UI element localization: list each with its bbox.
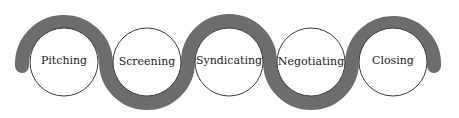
stage-label-syndicating: Syndicating <box>191 54 267 68</box>
stage-label-closing: Closing <box>355 54 431 68</box>
stage-label-screening: Screening <box>109 55 185 69</box>
stage-label-negotiating: Negotiating <box>273 55 349 69</box>
stage-label-pitching: Pitching <box>26 54 102 68</box>
